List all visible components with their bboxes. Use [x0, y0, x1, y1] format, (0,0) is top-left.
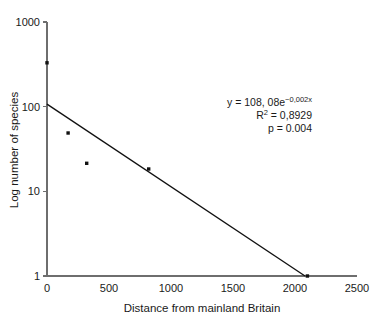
regression-trend-line	[47, 104, 305, 276]
x-tick-label-0: 0	[44, 282, 50, 294]
x-tick-label-1500: 1500	[221, 282, 245, 294]
x-axis-title: Distance from mainland Britain	[124, 302, 281, 314]
annotation-equation-prefix: y = 108, 08e	[227, 96, 285, 108]
annotation-equation-exponent: −0,002x	[285, 95, 312, 104]
data-point-1	[66, 131, 69, 134]
x-tick-label-2000: 2000	[283, 282, 307, 294]
data-point-3	[147, 167, 150, 170]
data-point-4	[306, 274, 309, 277]
y-tick-label-1000: 1000	[16, 16, 40, 28]
y-tick-label-10: 10	[28, 185, 40, 197]
x-tick-label-500: 500	[100, 282, 118, 294]
annotation-r-squared: R2 = 0,8929	[256, 108, 312, 121]
y-tick-label-100: 100	[22, 101, 40, 113]
annotation-p-value: p = 0.004	[268, 122, 312, 134]
annotation-equation: y = 108, 08e−0,002x	[227, 95, 312, 108]
annotation-r-squared-value: = 0,8929	[268, 109, 312, 121]
data-point-2	[85, 162, 88, 165]
x-tick-label-2500: 2500	[345, 282, 369, 294]
data-point-0	[45, 61, 48, 64]
y-axis-title: Log number of species	[8, 92, 20, 209]
x-tick-label-1000: 1000	[159, 282, 183, 294]
chart-container: 1000 100 10 1 0 500 1000 1500 2000 2500 …	[0, 0, 380, 322]
scatter-plot-svg: 1000 100 10 1 0 500 1000 1500 2000 2500 …	[0, 0, 380, 322]
y-tick-label-1: 1	[34, 270, 40, 282]
